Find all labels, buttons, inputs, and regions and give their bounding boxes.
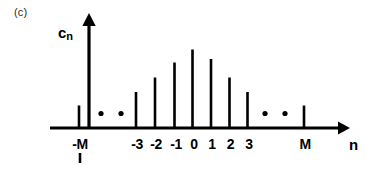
ellipsis-right-dot-1 xyxy=(262,111,267,116)
tick-label-2: 2 xyxy=(227,137,234,151)
x-axis-label: n xyxy=(349,137,358,152)
ellipsis-right-dot-2 xyxy=(282,111,287,116)
tick-label-M: M xyxy=(299,137,310,151)
tick-label-3: 3 xyxy=(245,137,252,151)
tick-label-minus-1: -1 xyxy=(170,137,181,151)
tick-label-1: 1 xyxy=(208,137,215,151)
tick-label-minus-2: -2 xyxy=(150,137,161,151)
ellipsis-left-dot-2 xyxy=(118,111,123,116)
x-axis-arrowhead xyxy=(338,122,350,135)
tick-label-minus-M: -M xyxy=(72,137,87,151)
tick-label-minus-3: -3 xyxy=(131,137,142,151)
y-axis-arrowhead xyxy=(82,13,95,26)
y-axis-label-subscript: n xyxy=(66,30,73,42)
tick-label-0: 0 xyxy=(190,137,197,151)
figure-panel-c: (c) cn n -M -3 -2 -1 0 1 2 3 M xyxy=(0,0,371,171)
ellipsis-left-dot-1 xyxy=(98,111,103,116)
y-axis-label: cn xyxy=(58,25,73,42)
spectrum-plot xyxy=(0,0,371,171)
